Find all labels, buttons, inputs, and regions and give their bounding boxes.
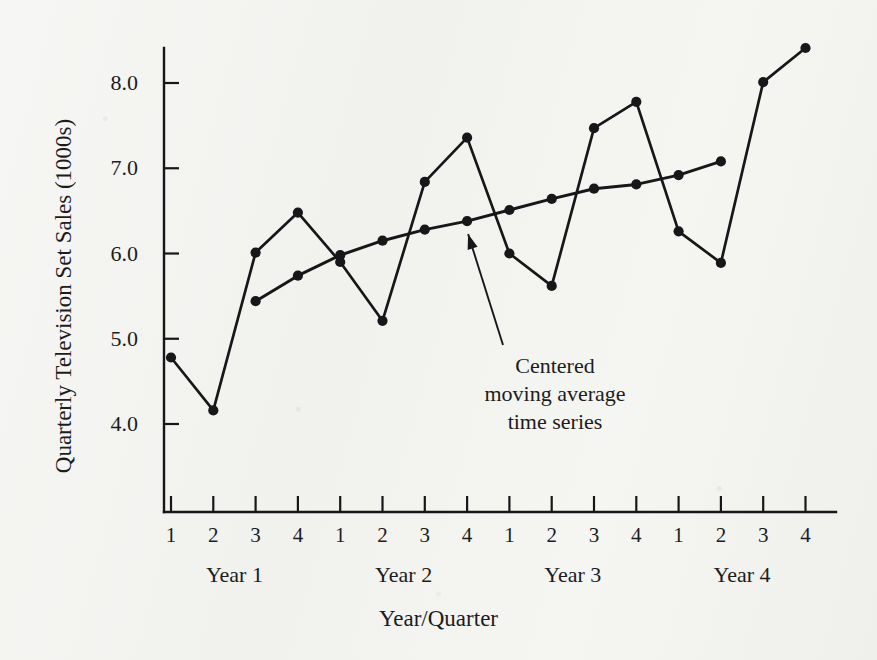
x-axis-title: Year/Quarter [0,606,877,632]
year-group-label-2: Year 2 [334,564,474,586]
data-point-s1-5 [420,225,430,235]
annotation-arrow-shaft [468,234,503,345]
x-tick-label-15: 3 [741,525,785,546]
data-point-s0-7 [420,177,430,187]
annotation-line-3: time series [440,408,670,436]
x-tick-label-3: 3 [234,525,278,546]
data-point-s1-4 [377,236,387,246]
data-point-s1-7 [504,205,514,215]
data-point-s0-8 [462,133,472,143]
year-group-label-3: Year 3 [503,564,643,586]
x-tick-label-1: 1 [149,525,193,546]
data-point-s1-3 [335,250,345,260]
x-tick-label-8: 4 [445,525,489,546]
data-point-s1-11 [674,170,684,180]
axes-group [164,48,836,512]
data-point-s0-12 [631,97,641,107]
annotation-arrow-group [468,234,503,345]
series-line-1 [256,161,721,301]
data-point-s0-10 [547,281,557,291]
data-point-s0-6 [377,316,387,326]
x-tick-label-12: 4 [614,525,658,546]
data-point-s1-2 [293,271,303,281]
figure-container: 1234123412341234 4.05.06.07.08.0 Year 1Y… [0,0,877,660]
data-point-s1-1 [251,296,261,306]
annotation-line-2: moving average [440,380,670,408]
data-point-s0-16 [800,43,810,53]
year-group-label-4: Year 4 [672,564,812,586]
x-tick-label-16: 4 [784,525,828,546]
data-point-s1-6 [462,216,472,226]
data-point-s1-12 [716,156,726,166]
data-point-s0-9 [504,248,514,258]
year-group-label-1: Year 1 [164,564,304,586]
x-tick-label-5: 1 [318,525,362,546]
x-tick-label-6: 2 [361,525,405,546]
data-point-s0-1 [166,352,176,362]
data-point-s1-10 [631,179,641,189]
data-point-s0-4 [293,208,303,218]
x-tick-label-10: 2 [530,525,574,546]
annotation-arrow-head [468,234,478,250]
x-tick-label-9: 1 [487,525,531,546]
data-point-s1-8 [547,194,557,204]
x-tick-label-4: 4 [276,525,320,546]
data-point-s0-15 [758,77,768,87]
x-tick-label-11: 3 [572,525,616,546]
annotation-line-1: Centered [440,352,670,380]
data-point-s0-14 [716,258,726,268]
data-point-s0-2 [208,405,218,415]
data-point-s0-11 [589,123,599,133]
y-axis-title: Quarterly Television Set Sales (1000s) [51,86,77,506]
x-tick-label-13: 1 [657,525,701,546]
x-tick-label-2: 2 [191,525,235,546]
x-tick-label-7: 3 [403,525,447,546]
data-point-s0-13 [674,226,684,236]
x-tick-label-14: 2 [699,525,743,546]
annotation-label: Centered moving average time series [440,352,670,436]
data-point-s0-3 [251,248,261,258]
data-point-s1-9 [589,184,599,194]
